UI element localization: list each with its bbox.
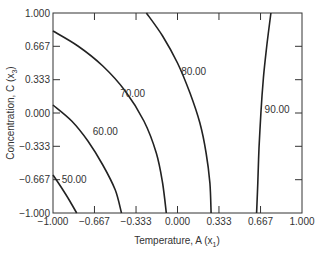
contour-line-60 xyxy=(53,105,122,213)
x-axis-title: Temperature, A (x1) xyxy=(134,235,220,248)
x-tick-labels: −1.000−0.667−0.3330.0000.3330.6671.000 xyxy=(38,216,315,227)
y-tick-label: −1.000 xyxy=(19,208,50,219)
contour-label-70: 70.00 xyxy=(120,88,145,99)
y-tick-label: −0.667 xyxy=(19,174,50,185)
contour-label-90: 90.00 xyxy=(265,104,290,115)
x-tick-label: 0.333 xyxy=(206,216,231,227)
y-tick-labels: −1.000−0.667−0.3330.0000.3330.6671.000 xyxy=(19,8,50,219)
y-axis-title: Concentration, C (x3) xyxy=(5,66,18,159)
contour-label-80: 80.00 xyxy=(181,66,206,77)
y-tick-label: 0.667 xyxy=(25,41,50,52)
y-tick-label: 1.000 xyxy=(25,8,50,19)
x-tick-label: −0.667 xyxy=(79,216,110,227)
y-tick-label: 0.333 xyxy=(25,74,50,85)
x-tick-label: −0.333 xyxy=(121,216,152,227)
contour-labels: 50.0060.0070.0080.0090.00 xyxy=(62,66,290,185)
contour-line-70 xyxy=(53,31,166,213)
y-tick-label: −0.333 xyxy=(19,141,50,152)
x-tick-label: 1.000 xyxy=(289,216,314,227)
y-tick-label: 0.000 xyxy=(25,108,50,119)
contour-line-80 xyxy=(146,13,211,213)
contour-label-50: 50.00 xyxy=(62,174,87,185)
contour-label-60: 60.00 xyxy=(93,126,118,137)
contour-chart: −1.000−0.667−0.3330.0000.3330.6671.000 −… xyxy=(0,0,325,263)
x-tick-label: 0.000 xyxy=(165,216,190,227)
x-tick-label: 0.667 xyxy=(248,216,273,227)
